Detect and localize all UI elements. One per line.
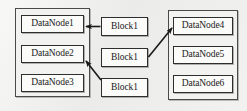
node-datanode6[interactable]: DataNode6 (173, 75, 233, 93)
block-box-2[interactable]: Block1 (101, 48, 148, 67)
block-box-3[interactable]: Block1 (101, 78, 148, 97)
block-replication-diagram: DataNode1 DataNode2 DataNode3 DataNode4 … (0, 0, 247, 111)
node-datanode1[interactable]: DataNode1 (21, 15, 84, 33)
block-box-1[interactable]: Block1 (101, 17, 148, 36)
node-datanode2[interactable]: DataNode2 (21, 45, 84, 63)
node-datanode5[interactable]: DataNode5 (173, 46, 233, 64)
node-datanode4[interactable]: DataNode4 (173, 17, 233, 35)
node-datanode3[interactable]: DataNode3 (21, 74, 84, 92)
